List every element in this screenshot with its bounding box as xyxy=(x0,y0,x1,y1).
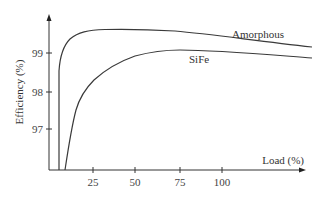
x-tick-label-75: 75 xyxy=(175,176,187,188)
y-tick-label-97: 97 xyxy=(32,123,44,135)
efficiency-load-chart: 99 98 97 25 50 75 100 Efficiency (%) Loa… xyxy=(0,0,321,197)
sife-curve xyxy=(65,50,312,170)
y-tick-label-98: 98 xyxy=(32,86,44,98)
axes xyxy=(49,20,300,170)
y-tick-label-99: 99 xyxy=(32,47,44,59)
y-axis-arrow-icon xyxy=(47,14,52,21)
x-tick-label-25: 25 xyxy=(88,176,100,188)
x-tick-label-100: 100 xyxy=(214,176,231,188)
sife-label: SiFe xyxy=(189,53,209,65)
x-axis-arrow-icon xyxy=(299,168,306,173)
x-axis-label: Load (%) xyxy=(262,154,304,167)
x-tick-label-50: 50 xyxy=(130,176,142,188)
y-axis-label: Efficiency (%) xyxy=(13,59,26,124)
amorphous-label: Amorphous xyxy=(232,28,284,40)
